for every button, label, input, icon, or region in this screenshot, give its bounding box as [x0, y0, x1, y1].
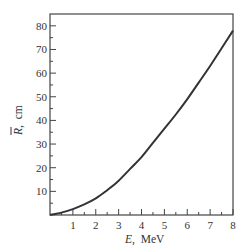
y-tick-label: 70	[36, 43, 48, 55]
x-axis-label: E, MeV	[124, 233, 165, 246]
y-tick-label: 30	[36, 138, 48, 150]
y-tick-label: 50	[36, 91, 48, 103]
x-tick-label: 2	[93, 219, 99, 231]
x-tick-label: 3	[116, 219, 122, 231]
y-tick-label: 20	[36, 162, 48, 174]
x-axis-unit: MeV	[141, 233, 165, 245]
y-axis-symbol: R	[12, 128, 24, 136]
x-tick-label: 5	[162, 219, 168, 231]
y-axis-label: R, cm	[11, 105, 25, 136]
x-tick-label: 4	[139, 219, 145, 231]
y-tick-label: 40	[36, 114, 48, 126]
plot-border	[50, 14, 233, 215]
y-tick-label: 60	[36, 67, 48, 79]
y-tick-label: 80	[36, 20, 48, 32]
y-axis-ticks	[50, 26, 56, 203]
x-axis-tick-labels: 12345678	[70, 219, 236, 231]
x-tick-label: 7	[207, 219, 213, 231]
x-axis-symbol: E,	[124, 233, 135, 246]
range-energy-chart: 1020304050607080 12345678 R, cm E, MeV	[0, 0, 250, 252]
x-tick-label: 6	[185, 219, 191, 231]
y-axis-tick-labels: 1020304050607080	[36, 20, 48, 198]
y-axis-unit: cm	[12, 105, 24, 119]
y-tick-label: 10	[36, 185, 48, 197]
x-tick-label: 1	[70, 219, 76, 231]
plot-frame	[50, 14, 233, 215]
x-axis-ticks	[61, 209, 233, 215]
range-curve	[50, 31, 233, 215]
x-tick-label: 8	[230, 219, 236, 231]
svg-text:R, cm: R, cm	[12, 105, 25, 136]
